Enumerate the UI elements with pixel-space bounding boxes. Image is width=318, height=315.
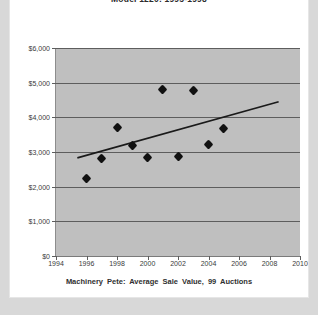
gridline [56,187,300,188]
y-axis-tick-mark [52,187,56,188]
gridline [56,221,300,222]
screenshot-root: Model 1220: 1995-1998 $0$1,000$2,000$3,0… [0,0,318,315]
x-axis-tick-label: 2004 [192,260,226,267]
gridline [56,48,300,49]
chart-card: Model 1220: 1995-1998 $0$1,000$2,000$3,0… [10,0,308,297]
x-axis-tick-mark [270,256,271,260]
x-axis-tick-label: 1998 [100,260,134,267]
y-axis-tick-label: $6,000 [10,45,50,52]
y-axis-tick-mark [52,152,56,153]
x-axis-tick-label: 1994 [39,260,73,267]
y-axis-tick-label: $5,000 [10,79,50,86]
y-axis-tick-label: $4,000 [10,114,50,121]
x-axis-tick-mark [209,256,210,260]
x-axis-tick-mark [300,256,301,260]
gridline [56,83,300,84]
y-axis-tick-label: $2,000 [10,183,50,190]
chart-caption: Machinery Pete: Average Sale Value, 99 A… [10,277,308,286]
x-axis-tick-mark [178,256,179,260]
x-axis-tick-mark [56,256,57,260]
gridline [56,117,300,118]
plot-area-wrapper: $0$1,000$2,000$3,000$4,000$5,000$6,000 1… [56,48,300,256]
x-axis-tick-label: 2000 [131,260,165,267]
y-axis-tick-mark [52,117,56,118]
x-axis-tick-label: 2002 [161,260,195,267]
x-axis-tick-mark [148,256,149,260]
chart-title: Model 1220: 1995-1998 [10,0,308,4]
y-axis-tick-label: $1,000 [10,218,50,225]
x-axis-tick-mark [117,256,118,260]
x-axis-tick-label: 2010 [283,260,308,267]
x-axis-tick-mark [239,256,240,260]
y-axis-tick-mark [52,83,56,84]
x-axis-tick-label: 2008 [253,260,287,267]
x-axis-tick-label: 2006 [222,260,256,267]
x-axis-tick-label: 1996 [70,260,104,267]
y-axis-tick-label: $3,000 [10,149,50,156]
x-axis-tick-mark [87,256,88,260]
y-axis-tick-label: $0 [10,253,50,260]
y-axis-tick-mark [52,221,56,222]
y-axis-tick-mark [52,48,56,49]
